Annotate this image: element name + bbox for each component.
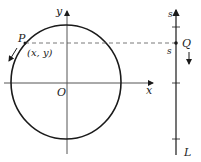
s-axis-top-label: s xyxy=(168,9,173,19)
s-q-label: s xyxy=(167,46,172,56)
point-p-label: P xyxy=(17,32,26,45)
point-q-label: Q xyxy=(182,37,191,50)
origin-label: O xyxy=(57,86,66,99)
line-l-label: L xyxy=(183,146,191,159)
y-axis-label: y xyxy=(55,5,63,18)
unit-circle xyxy=(11,25,121,139)
x-axis-label: x xyxy=(146,84,153,97)
point-p-coords-label: (x, y) xyxy=(27,47,53,58)
point-q xyxy=(174,41,178,45)
circle-projection-diagram: y x O P (x, y) Q L s s xyxy=(0,0,201,162)
